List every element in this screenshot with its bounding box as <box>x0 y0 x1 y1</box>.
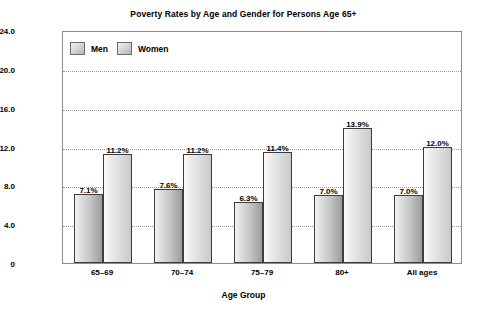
y-tick-label: 16.0 <box>0 104 15 113</box>
y-tick-label: 24.0 <box>0 27 15 36</box>
legend-item-men: Men <box>70 42 108 55</box>
legend-swatch-men-icon <box>70 42 85 55</box>
bar-women[interactable] <box>263 152 292 263</box>
plot-area: 7.1%11.2%7.6%11.2%6.3%11.4%7.0%13.9%7.0%… <box>62 31 462 264</box>
legend-label-women: Women <box>138 44 169 54</box>
bar-group: 7.0%13.9% <box>314 32 372 263</box>
x-tick-label: 65–69 <box>91 268 113 277</box>
bar-men[interactable] <box>234 202 263 263</box>
bar-women[interactable] <box>183 154 212 263</box>
bar-groups: 7.1%11.2%7.6%11.2%6.3%11.4%7.0%13.9%7.0%… <box>63 32 461 263</box>
y-tick-label: 0 <box>0 260 15 269</box>
chart-container: Poverty Rates by Age and Gender for Pers… <box>0 0 487 324</box>
x-tick-label: 80+ <box>335 268 349 277</box>
bar-group: 7.1%11.2% <box>74 32 132 263</box>
x-tick-label: 75–79 <box>251 268 273 277</box>
bar-value-label: 6.3% <box>239 194 257 204</box>
chart-title: Poverty Rates by Age and Gender for Pers… <box>0 9 487 19</box>
bar-value-label: 12.0% <box>426 139 449 149</box>
legend-item-women: Women <box>117 42 169 55</box>
y-tick-label: 20.0 <box>0 65 15 74</box>
bar-value-label: 7.6% <box>159 181 177 191</box>
bar-value-label: 7.1% <box>79 186 97 196</box>
bar-men[interactable] <box>154 189 183 263</box>
x-tick-label: 70–74 <box>171 268 193 277</box>
y-tick-label: 8.0 <box>0 182 15 191</box>
bar-women[interactable] <box>343 128 372 263</box>
bar-value-label: 13.9% <box>346 120 369 130</box>
bar-men[interactable] <box>74 194 103 263</box>
bar-men[interactable] <box>314 195 343 263</box>
y-tick-label: 4.0 <box>0 221 15 230</box>
bar-value-label: 7.0% <box>399 187 417 197</box>
bar-group: 7.0%12.0% <box>394 32 452 263</box>
x-tick-label: All ages <box>407 268 438 277</box>
bar-value-label: 7.0% <box>319 187 337 197</box>
bar-group: 6.3%11.4% <box>234 32 292 263</box>
bar-value-label: 11.2% <box>186 146 208 156</box>
bar-value-label: 11.2% <box>106 146 128 156</box>
legend-swatch-women-icon <box>117 42 132 55</box>
bar-value-label: 11.4% <box>266 144 288 154</box>
chart-legend: Men Women <box>70 42 169 55</box>
legend-label-men: Men <box>91 44 108 54</box>
y-tick-label: 12.0 <box>0 143 15 152</box>
bar-women[interactable] <box>103 154 132 263</box>
bar-group: 7.6%11.2% <box>154 32 212 263</box>
bar-women[interactable] <box>423 147 452 264</box>
x-axis-title: Age Group <box>0 290 487 300</box>
bar-men[interactable] <box>394 195 423 263</box>
